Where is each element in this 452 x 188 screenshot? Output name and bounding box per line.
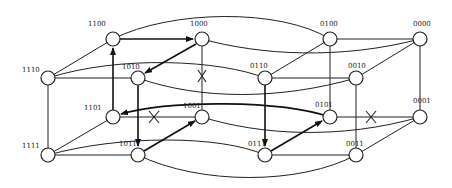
label-0001: 0001 bbox=[413, 97, 431, 105]
label-1011: 1011 bbox=[119, 140, 137, 148]
label-0100: 0100 bbox=[320, 20, 338, 28]
label-0000: 0000 bbox=[413, 20, 431, 28]
node-1010 bbox=[131, 71, 145, 85]
label-0110: 0110 bbox=[250, 62, 268, 70]
node-0100 bbox=[323, 32, 337, 46]
node-0111 bbox=[258, 148, 272, 162]
node-1011 bbox=[131, 148, 145, 162]
node-0000 bbox=[413, 32, 427, 46]
hypercube-diagram: 1100 1000 0100 0000 1110 1010 0110 0010 … bbox=[0, 0, 452, 188]
label-1001: 1001 bbox=[183, 102, 201, 110]
label-1100: 1100 bbox=[88, 20, 106, 28]
label-1110: 1110 bbox=[22, 66, 40, 74]
label-0010: 0010 bbox=[348, 62, 366, 70]
cross-cube-edges bbox=[48, 16, 420, 177]
node-0001 bbox=[413, 110, 427, 124]
label-0111: 0111 bbox=[248, 140, 266, 148]
node-1101 bbox=[106, 110, 120, 124]
node-1100 bbox=[106, 32, 120, 46]
right-cube-edges bbox=[113, 39, 420, 155]
node-1001 bbox=[195, 110, 209, 124]
label-1101: 1101 bbox=[84, 104, 102, 112]
label-1111: 1111 bbox=[22, 142, 40, 150]
node-0010 bbox=[349, 71, 363, 85]
label-0101: 0101 bbox=[315, 101, 333, 109]
node-1110 bbox=[41, 71, 55, 85]
label-0011: 0011 bbox=[346, 140, 364, 148]
node-0011 bbox=[349, 148, 363, 162]
left-cube-edges bbox=[48, 39, 202, 155]
node-1111 bbox=[41, 148, 55, 162]
node-0101 bbox=[323, 110, 337, 124]
label-1000: 1000 bbox=[190, 20, 208, 28]
node-0110 bbox=[258, 71, 272, 85]
node-1000 bbox=[195, 32, 209, 46]
routing-path bbox=[113, 39, 330, 151]
nodes bbox=[41, 32, 427, 162]
label-1010: 1010 bbox=[122, 63, 140, 71]
